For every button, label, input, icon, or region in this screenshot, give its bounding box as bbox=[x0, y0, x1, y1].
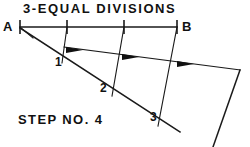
apex-leader-stroke bbox=[21, 28, 33, 38]
figure-title: 3-EQUAL DIVISIONS bbox=[23, 2, 176, 15]
transfer-line bbox=[64, 47, 240, 70]
projector-line-3 bbox=[158, 27, 177, 126]
technical-drawing-figure: 3-EQUAL DIVISIONS A B 1 2 3 STEP NO. 4 bbox=[0, 0, 250, 147]
endpoint-label-b: B bbox=[182, 20, 191, 33]
division-number-2: 2 bbox=[100, 82, 107, 94]
projector-line-2 bbox=[112, 27, 124, 96]
arrow-marker-2 bbox=[122, 54, 139, 60]
arrow-marker-3 bbox=[177, 61, 194, 67]
step-caption: STEP NO. 4 bbox=[18, 113, 103, 126]
endpoint-label-a: A bbox=[3, 20, 12, 33]
division-number-3: 3 bbox=[150, 111, 157, 123]
right-edge-line bbox=[213, 70, 240, 147]
division-number-1: 1 bbox=[55, 56, 62, 68]
